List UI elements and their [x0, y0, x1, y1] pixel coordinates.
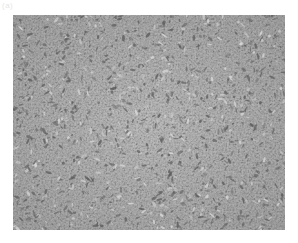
figure-caption: (a): [2, 1, 13, 10]
cell-texture: [13, 15, 285, 230]
cell-culture-micrograph: [13, 15, 285, 230]
